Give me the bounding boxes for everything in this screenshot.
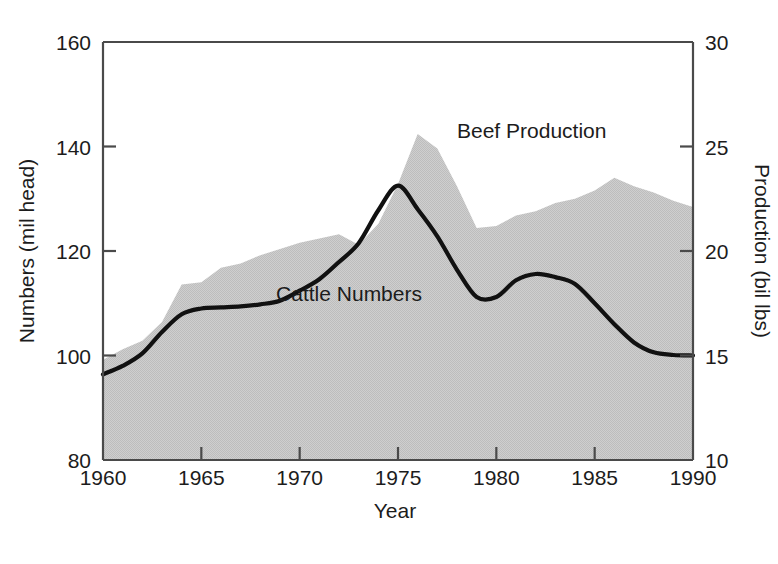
y-tick-label-140: 140 — [56, 136, 91, 159]
y-axis-title-left: Numbers (mil head) — [15, 159, 38, 343]
y-tick-label-80: 80 — [68, 449, 91, 472]
beef-production-label: Beef Production — [457, 119, 606, 142]
y2-tick-label-10: 10 — [705, 449, 728, 472]
x-tick-label-1970: 1970 — [276, 466, 323, 489]
x-tick-label-1985: 1985 — [571, 466, 618, 489]
y-axis-title-right: Production (bil lbs) — [751, 164, 774, 338]
y2-tick-label-20: 20 — [705, 240, 728, 263]
y-tick-label-120: 120 — [56, 240, 91, 263]
y2-tick-label-25: 25 — [705, 136, 728, 159]
x-tick-label-1975: 1975 — [375, 466, 422, 489]
y2-tick-label-15: 15 — [705, 345, 728, 368]
cattle-numbers-label: Cattle Numbers — [276, 282, 422, 305]
y2-tick-label-30: 30 — [705, 31, 728, 54]
x-tick-label-1980: 1980 — [473, 466, 520, 489]
x-tick-label-1965: 1965 — [178, 466, 225, 489]
x-axis-title: Year — [374, 499, 416, 522]
chart-figure: 1960196519701975198019851990 80100120140… — [0, 0, 778, 564]
y-tick-label-100: 100 — [56, 345, 91, 368]
y-tick-label-160: 160 — [56, 31, 91, 54]
cattle-beef-chart: 1960196519701975198019851990 80100120140… — [0, 0, 778, 564]
